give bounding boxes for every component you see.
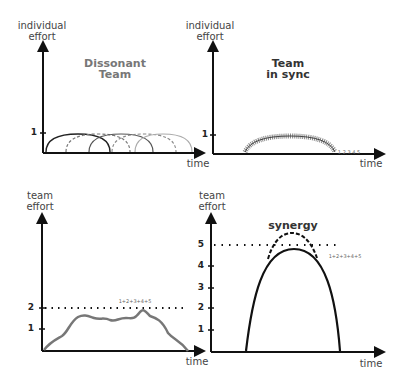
bottom-right-y-tick-3: 3	[197, 282, 205, 293]
bottom-left-axes	[39, 218, 200, 351]
y-label-line1: individual	[180, 20, 240, 31]
bottom-right-y-tick-1: 1	[197, 324, 205, 335]
y-label-line2: effort	[12, 31, 72, 42]
bottom-right-y-tick-4: 4	[197, 260, 205, 271]
bottom-left-y-label: team effort	[20, 190, 60, 212]
y-label-line1: team	[20, 190, 60, 201]
title-line2: in sync	[263, 69, 313, 80]
y-label-line1: individual	[12, 20, 72, 31]
bottom-left-y-tick-1: 1	[27, 323, 35, 334]
bottom-right-y-label: team effort	[192, 190, 232, 212]
bottom-left-y-tick-2: 2	[27, 302, 35, 313]
y-label-line2: effort	[20, 201, 60, 212]
dissonant-arcs	[46, 134, 192, 152]
synergy-curve	[246, 249, 340, 351]
top-left-x-label: time	[183, 158, 213, 169]
y-label-line2: effort	[180, 31, 240, 42]
bottom-left-sum-label: 1+2+3+4+5	[115, 296, 155, 307]
bottom-right-sum-label: 1+2+3+4+5	[325, 251, 365, 262]
bottom-right-axes	[208, 218, 380, 352]
top-right-title: Team in sync	[263, 58, 313, 80]
bottom-left-x-label: time	[182, 356, 212, 367]
team-effort-curve	[44, 310, 188, 351]
y-label-line1: team	[192, 190, 232, 201]
bottom-right-y-tick-5: 5	[197, 239, 205, 250]
top-right-y-label: individual effort	[180, 20, 240, 42]
top-right-x-label: time	[356, 158, 386, 169]
bottom-right-x-label: time	[356, 358, 386, 369]
top-left-y-tick: 1	[30, 127, 38, 138]
top-right-arc-label: 1,2,3,4,5	[334, 147, 364, 158]
y-label-line2: effort	[192, 201, 232, 212]
bottom-right-title: synergy	[268, 220, 318, 231]
bottom-right-y-tick-2: 2	[197, 302, 205, 313]
top-left-y-label: individual effort	[12, 20, 72, 42]
title-line2: Team	[80, 69, 150, 80]
sync-arcs	[245, 136, 335, 152]
top-left-title: Dissonant Team	[80, 58, 150, 80]
top-right-y-tick: 1	[201, 129, 209, 140]
